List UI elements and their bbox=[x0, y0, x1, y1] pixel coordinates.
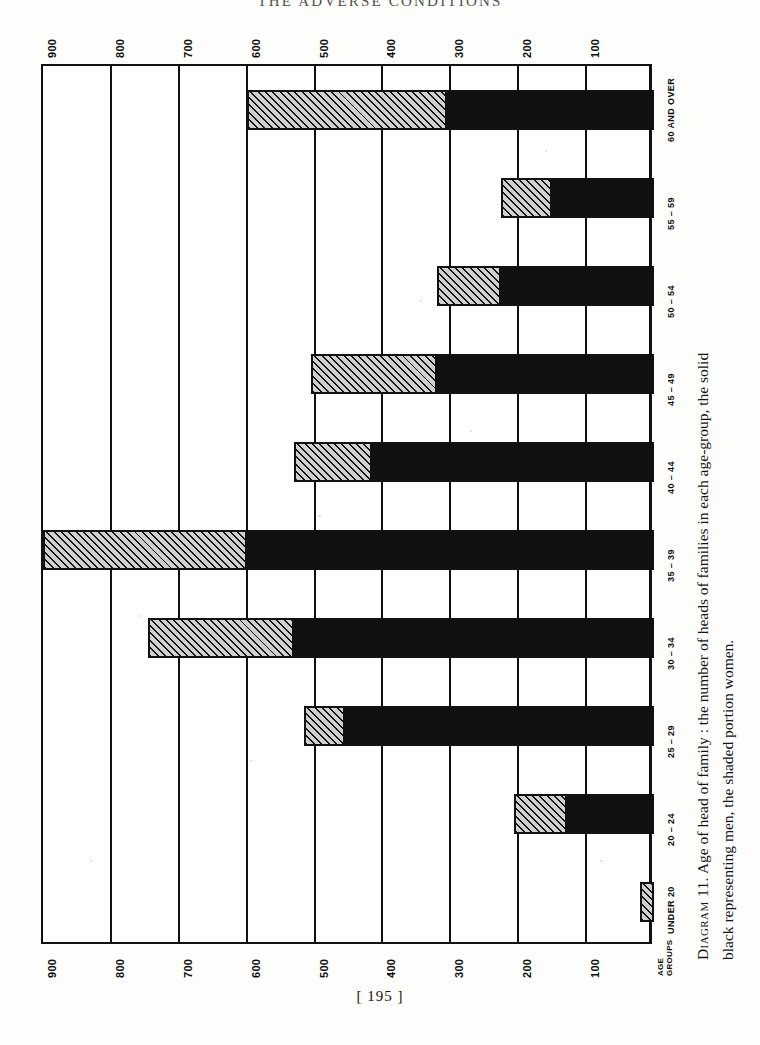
bar-segment-men bbox=[247, 530, 654, 570]
category-label-2: 25 – 29 bbox=[666, 725, 676, 758]
caption-line-2: black representing men, the shaded porti… bbox=[715, 80, 740, 960]
bar-segment-women bbox=[514, 794, 567, 834]
bar-segment-men bbox=[501, 266, 654, 306]
category-label-8: 55 – 59 bbox=[666, 197, 676, 230]
figure-caption: Diagram 11. Age of head of family : the … bbox=[690, 80, 740, 960]
scan-speckle bbox=[420, 300, 422, 302]
bar-segment-men bbox=[345, 706, 654, 746]
value-tick-label-bottom-200: 200 bbox=[521, 959, 533, 978]
scan-speckle bbox=[250, 760, 252, 762]
value-tick-label-bottom-300: 300 bbox=[453, 959, 465, 978]
bar-row bbox=[43, 794, 649, 834]
bar-segment-women bbox=[437, 266, 501, 306]
bar-row bbox=[43, 706, 649, 746]
value-tick-label-bottom-400: 400 bbox=[385, 959, 397, 978]
bar-segment-women bbox=[294, 442, 372, 482]
bar-row bbox=[43, 442, 649, 482]
category-label-9: 60 AND OVER bbox=[666, 78, 676, 142]
bar-row bbox=[43, 354, 649, 394]
scan-speckle bbox=[600, 860, 603, 862]
category-label-7: 50 – 54 bbox=[666, 285, 676, 318]
bar-segment-women bbox=[247, 90, 447, 130]
bar-segment-women bbox=[311, 354, 437, 394]
bar-row bbox=[43, 618, 649, 658]
figure-label: Diagram 11. bbox=[694, 877, 711, 960]
value-tick-label-top-500: 500 bbox=[318, 39, 330, 58]
value-tick-label-top-200: 200 bbox=[521, 39, 533, 58]
category-label-0: UNDER 20 bbox=[666, 886, 676, 934]
scan-speckle bbox=[318, 515, 321, 517]
bar-row bbox=[43, 266, 649, 306]
value-tick-label-bottom-600: 600 bbox=[250, 959, 262, 978]
category-label-6: 45 – 49 bbox=[666, 373, 676, 406]
value-tick-label-top-400: 400 bbox=[385, 39, 397, 58]
bar-segment-women bbox=[43, 530, 247, 570]
bar-segment-women bbox=[148, 618, 294, 658]
category-axis-title: AGEGROUPS bbox=[656, 940, 674, 976]
value-tick-label-top-300: 300 bbox=[453, 39, 465, 58]
bar-row bbox=[43, 530, 649, 570]
value-tick-label-bottom-900: 900 bbox=[46, 959, 58, 978]
caption-line-1: Age of head of family : the number of he… bbox=[694, 353, 711, 874]
figure-diagram-11: 9009008008007007006006005005004004003003… bbox=[0, 0, 760, 1045]
value-tick-label-top-100: 100 bbox=[589, 39, 601, 58]
axis-title-line-2: GROUPS bbox=[665, 940, 674, 976]
scan-speckle bbox=[545, 150, 547, 152]
category-label-3: 30 – 34 bbox=[666, 637, 676, 670]
scan-speckle bbox=[140, 615, 142, 617]
scan-speckle bbox=[470, 430, 472, 432]
page-folio: [ 195 ] bbox=[0, 988, 760, 1005]
bar-segment-men bbox=[372, 442, 654, 482]
scan-speckle bbox=[90, 860, 92, 862]
bar-segment-women bbox=[304, 706, 345, 746]
bar-row bbox=[43, 178, 649, 218]
category-label-4: 35 – 39 bbox=[666, 549, 676, 582]
bar-segment-men bbox=[437, 354, 654, 394]
value-tick-label-top-700: 700 bbox=[182, 39, 194, 58]
value-tick-label-top-900: 900 bbox=[46, 39, 58, 58]
value-tick-label-bottom-700: 700 bbox=[182, 959, 194, 978]
bar-segment-men bbox=[552, 178, 654, 218]
value-tick-label-bottom-800: 800 bbox=[114, 959, 126, 978]
chart-plot-area bbox=[41, 64, 652, 944]
value-tick-label-bottom-500: 500 bbox=[318, 959, 330, 978]
bar-segment-men bbox=[567, 794, 654, 834]
axis-title-line-1: AGE bbox=[656, 958, 665, 976]
category-label-1: 20 – 24 bbox=[666, 813, 676, 846]
category-label-5: 40 – 44 bbox=[666, 461, 676, 494]
bar-row bbox=[43, 882, 649, 922]
value-tick-label-top-800: 800 bbox=[114, 39, 126, 58]
bar-segment-men bbox=[294, 618, 654, 658]
value-tick-label-top-600: 600 bbox=[250, 39, 262, 58]
value-tick-label-bottom-100: 100 bbox=[589, 959, 601, 978]
bar-segment-men bbox=[447, 90, 654, 130]
bar-segment-women bbox=[640, 882, 654, 922]
bar-segment-women bbox=[501, 178, 552, 218]
bar-row bbox=[43, 90, 649, 130]
